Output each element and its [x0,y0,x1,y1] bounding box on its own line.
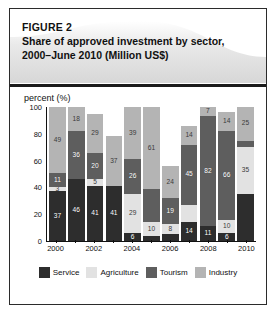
x-axis-tickmark [170,240,171,243]
header-divider [10,84,266,87]
bar-segment-industry-2004: 39 [124,107,141,159]
bar-segment-agriculture-2006: 8 [162,224,179,235]
bar-segment-tourism-2008: 82 [200,116,217,226]
bar-segment-tourism-2002: 20 [87,153,104,180]
bar-segment-tourism-2007: 45 [181,145,198,205]
bar-segment-industry-2006: 24 [162,166,179,198]
bar-segment-agriculture-2007 [181,205,198,222]
y-axis-tick-0: 0 [38,237,42,246]
x-axis-tickmark [113,240,114,243]
bar-segment-value: 39 [129,130,136,137]
bar-segment-value: 45 [185,171,192,178]
x-axis-tickmark [56,240,57,243]
x-axis-tick-2006: 2006 [162,244,179,253]
legend-swatch-service [39,267,50,278]
bar-segment-tourism-2005 [143,189,160,223]
bar-2008[interactable]: 11827 [200,107,217,241]
bar-segment-value: 7 [206,108,210,115]
legend-label: Tourism [160,268,188,277]
x-axis-tickmark [227,240,228,243]
x-axis-tick-2000: 2000 [47,244,64,253]
chart-legend: ServiceAgricultureTourismIndustry [10,267,266,278]
legend-item-industry[interactable]: Industry [195,267,237,278]
bar-2010[interactable]: 3525 [237,107,254,241]
bar-segment-industry-2002: 29 [87,114,104,153]
chart-plot-wrapper: 020406080100 373114946361841520294137629… [24,107,256,259]
bar-segment-service-2000: 37 [49,191,66,241]
bar-segment-value: 20 [91,163,98,170]
bar-segment-tourism-2006: 19 [162,198,179,223]
x-axis-tickmark [208,240,209,243]
bar-segment-value: 14 [223,118,230,125]
bar-segment-industry-2007: 14 [181,126,198,145]
bar-segment-value: 35 [242,167,249,174]
bar-segment-industry-2005: 61 [143,107,160,189]
legend-label: Agriculture [100,268,138,277]
bar-segment-service-2002: 41 [87,186,104,241]
figure-card: FIGURE 2 Share of approved investment by… [9,8,267,305]
bar-segment-value: 25 [242,120,249,127]
bar-segment-agriculture-2010: 35 [237,147,254,194]
bar-segment-tourism-2000: 11 [49,173,66,188]
x-axis-tick-2004: 2004 [124,244,141,253]
bar-segment-value: 14 [185,132,192,139]
bar-segment-value: 49 [54,137,61,144]
bar-2000[interactable]: 3731149 [49,107,66,241]
bar-segment-tourism-2010 [237,141,254,148]
bar-segment-tourism-2001: 36 [68,131,85,179]
y-axis-tick-40: 40 [34,183,42,192]
bar-segment-agriculture-2002: 5 [87,179,104,186]
bar-segment-industry-2000: 49 [49,107,66,173]
bar-segment-value: 66 [223,172,230,179]
bar-segment-value: 37 [110,158,117,165]
figure-title-line-1: Share of approved investment by sector, [22,35,224,47]
legend-item-tourism[interactable]: Tourism [146,267,188,278]
x-axis-tickmark [246,240,247,243]
bar-2004[interactable]: 6292639 [124,107,141,241]
bar-segment-value: 41 [91,210,98,217]
bar-segment-value: 82 [204,168,211,175]
bar-segment-value: 19 [167,208,174,215]
x-axis-tickmark [151,240,152,243]
x-axis-tick-2008: 2008 [200,244,217,253]
bar-2006[interactable]: 81924 [162,107,179,241]
bar-segment-industry-2008: 7 [200,107,217,116]
x-axis-tick-2002: 2002 [85,244,102,253]
legend-swatch-industry [195,267,206,278]
legend-swatch-agriculture [86,267,97,278]
x-axis-tickmark [94,240,95,243]
bar-segment-value: 37 [54,213,61,220]
legend-label: Service [53,268,80,277]
bar-2003[interactable]: 4137 [106,107,123,241]
bar-segment-value: 10 [148,226,155,233]
bar-segment-value: 10 [223,223,230,230]
bar-2007[interactable]: 144514 [181,107,198,241]
bar-segment-value: 41 [110,210,117,217]
legend-label: Industry [209,268,237,277]
bar-segment-industry-2010: 25 [237,107,254,141]
bar-segment-value: 29 [91,130,98,137]
x-axis-tickmark [189,240,190,243]
y-axis-tick-80: 80 [34,129,42,138]
bar-2001[interactable]: 463618 [68,107,85,241]
y-axis-tick-100: 100 [29,103,42,112]
legend-item-agriculture[interactable]: Agriculture [86,267,138,278]
x-axis-tickmark [75,240,76,243]
chart-plot-area: 3731149463618415202941376292639106181924… [46,107,256,242]
bar-segment-value: 29 [129,210,136,217]
bar-segment-service-2008: 11 [200,226,217,241]
bar-segment-value: 8 [168,226,172,233]
y-axis-tick-20: 20 [34,210,42,219]
bar-segment-value: 46 [73,207,80,214]
bar-2005[interactable]: 1061 [143,107,160,241]
bar-segment-value: 61 [148,145,155,152]
figure-title-line-2: 2000–June 2010 (Million US$) [22,49,168,61]
y-axis-title: percent (%) [24,93,71,103]
bar-2002[interactable]: 4152029 [87,107,104,241]
bar-segment-industry-2009: 14 [218,112,235,131]
legend-item-service[interactable]: Service [39,267,80,278]
bar-segment-value: 11 [54,177,61,184]
bar-segment-service-2010 [237,194,254,241]
bar-segment-agriculture-2005: 10 [143,222,160,235]
bar-2009[interactable]: 6106614 [218,107,235,241]
